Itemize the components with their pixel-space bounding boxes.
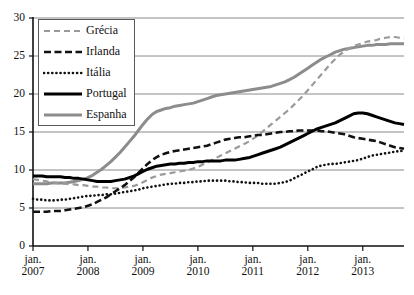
y-tick-label: 30: [3, 11, 25, 23]
legend-item-portugal: Portugal: [39, 83, 134, 104]
legend-label-espanha: Espanha: [86, 107, 127, 122]
legend-swatch-espanha-icon: [43, 108, 83, 122]
y-tick-label: 25: [3, 49, 25, 61]
y-tick-label: 5: [3, 201, 25, 213]
legend-item-italia: Itália: [39, 62, 134, 83]
x-tick-label: jan. 2010: [178, 253, 218, 277]
y-tick-label: 20: [3, 87, 25, 99]
legend: Grécia Irlanda Itália Portugal Espanha: [38, 19, 135, 126]
legend-swatch-grecia-icon: [43, 24, 83, 38]
y-tick-label: 10: [3, 163, 25, 175]
x-tick-label: jan. 2012: [288, 253, 328, 277]
legend-label-portugal: Portugal: [86, 86, 127, 101]
x-tick-label: jan. 2013: [343, 253, 383, 277]
legend-label-grecia: Grécia: [86, 23, 118, 38]
x-tick-label: jan. 2011: [233, 253, 273, 277]
unemployment-line-chart: 051015202530 jan. 2007jan. 2008jan. 2009…: [0, 0, 414, 295]
x-tick-label: jan. 2009: [123, 253, 163, 277]
x-tick-label: jan. 2008: [68, 253, 108, 277]
legend-swatch-portugal-icon: [43, 87, 83, 101]
x-tick-label: jan. 2007: [13, 253, 53, 277]
legend-item-irlanda: Irlanda: [39, 41, 134, 62]
legend-label-italia: Itália: [86, 65, 111, 80]
series-line-irlanda: [33, 130, 404, 211]
y-tick-label: 0: [3, 239, 25, 251]
legend-item-grecia: Grécia: [39, 20, 134, 41]
legend-swatch-irlanda-icon: [43, 45, 83, 59]
legend-swatch-italia-icon: [43, 66, 83, 80]
legend-label-irlanda: Irlanda: [86, 44, 120, 59]
y-tick-label: 15: [3, 125, 25, 137]
legend-item-espanha: Espanha: [39, 104, 134, 125]
